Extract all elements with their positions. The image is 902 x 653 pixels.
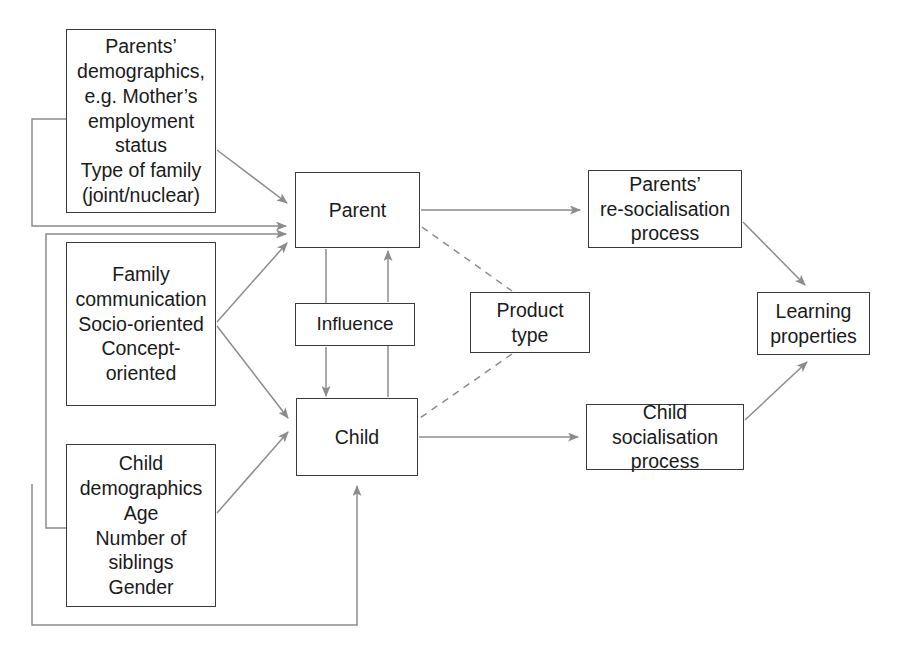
node-child-demographics[interactable]: Child demographics Age Number of sibling… — [66, 444, 216, 607]
node-parent[interactable]: Parent — [295, 172, 420, 248]
node-product-type[interactable]: Product type — [470, 292, 590, 353]
node-family-communication-label: Family communication Socio-oriented Conc… — [67, 262, 215, 387]
node-learning-properties[interactable]: Learning properties — [757, 292, 870, 355]
node-parents-resocialisation[interactable]: Parents’ re-socialisation process — [588, 170, 742, 248]
node-product-type-label: Product type — [492, 298, 567, 348]
node-parents-demographics-label: Parents’ demographics, e.g. Mother’s emp… — [73, 34, 209, 209]
edge-family-communication-to-child — [217, 326, 288, 418]
edge-child-demographics-to-child — [217, 432, 288, 513]
edge-parent-to-product-type — [422, 227, 512, 291]
node-parents-demographics[interactable]: Parents’ demographics, e.g. Mother’s emp… — [66, 29, 216, 213]
node-parents-resocialisation-label: Parents’ re-socialisation process — [596, 172, 734, 247]
diagram-canvas: Parents’ demographics, e.g. Mother’s emp… — [0, 0, 902, 653]
edge-parents-resocialisation-to-learning-properties — [743, 222, 805, 285]
node-child-demographics-label: Child demographics Age Number of sibling… — [76, 451, 206, 601]
edge-child-socialisation-to-learning-properties — [745, 362, 807, 420]
node-child-socialisation[interactable]: Child socialisation process — [586, 404, 744, 470]
node-child-socialisation-label: Child socialisation process — [587, 400, 743, 475]
node-child-label: Child — [331, 425, 383, 450]
node-parent-label: Parent — [325, 198, 390, 223]
node-influence-label: Influence — [312, 312, 397, 336]
edge-family-communication-to-parent — [217, 243, 287, 322]
node-influence[interactable]: Influence — [295, 303, 415, 346]
edge-parents-demographics-to-parent — [217, 150, 287, 203]
node-family-communication[interactable]: Family communication Socio-oriented Conc… — [66, 242, 216, 406]
node-child[interactable]: Child — [296, 398, 418, 476]
node-learning-properties-label: Learning properties — [766, 299, 861, 349]
edge-product-type-to-child — [420, 354, 512, 418]
